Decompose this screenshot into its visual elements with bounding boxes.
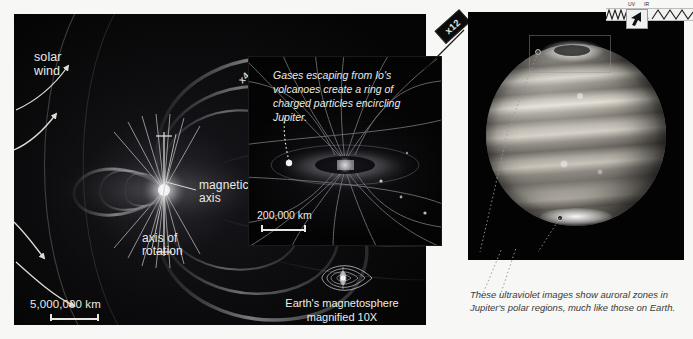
earth-caption-line2: magnified 10X	[307, 311, 377, 323]
toolbar-label-ir: IR	[644, 1, 649, 7]
scale-bar-tick-start-left	[50, 314, 52, 321]
earth-magnetosphere-caption: Earth's magnetosphere magnified 10X	[262, 296, 422, 325]
toolbar-label-uv: UV	[628, 1, 635, 7]
solar-wind-label-line1: solar	[34, 50, 62, 64]
magnetic-axis-label-line1: magnetic	[199, 178, 249, 192]
uv-photo-caption: These ultraviolet images show auroral zo…	[470, 288, 685, 314]
axis-of-rotation-label-line1: axis of	[142, 231, 177, 245]
scale-bar-tick-end-left	[97, 314, 99, 321]
axis-of-rotation-label: axis of rotation	[142, 232, 183, 259]
scale-bar-left	[50, 318, 98, 320]
scale-bar-label-middle: 200,000 km	[257, 209, 312, 221]
zigzag-waveform-icon	[606, 9, 693, 20]
solar-wind-label-line2: wind	[34, 64, 60, 78]
panel-jupiter-uv-photo	[468, 12, 684, 260]
scale-bar-label-left: 5,000,000 km	[30, 298, 101, 311]
arrow-cursor-icon[interactable]	[626, 9, 648, 29]
earth-magnetosphere-icon	[318, 262, 374, 294]
panel-io-plasma-torus: Gases escaping from Io's volcanoes creat…	[248, 56, 442, 246]
solar-wind-label: solar wind	[34, 50, 62, 78]
axis-of-rotation-label-line2: rotation	[142, 244, 183, 258]
earth-caption-line1: Earth's magnetosphere	[285, 297, 398, 309]
scale-bar-middle	[261, 229, 305, 231]
waveform-strip	[606, 8, 693, 21]
magnetic-axis-label-line2: axis	[199, 191, 221, 205]
scale-bar-tick-end-middle	[304, 225, 306, 232]
infographic-figure: solar wind magnetic axis axis of rotatio…	[0, 0, 693, 339]
jupiter-photo-annotations	[468, 12, 684, 260]
scale-bar-tick-start-middle	[261, 225, 263, 232]
top-right-toolbar[interactable]: UV IR	[606, 0, 693, 24]
io-torus-caption: Gases escaping from Io's volcanoes creat…	[273, 69, 423, 124]
magnetic-axis-label: magnetic axis	[199, 179, 249, 206]
